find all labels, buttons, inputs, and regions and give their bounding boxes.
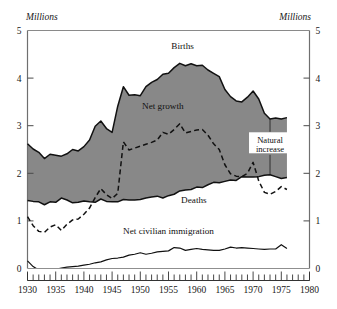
- y-tick-label-left: 1: [17, 216, 22, 226]
- x-tick-label: 1945: [103, 285, 122, 295]
- x-tick-label: 1960: [187, 285, 206, 295]
- x-tick-label: 1935: [46, 285, 65, 295]
- y-tick-label-right: 5: [316, 26, 321, 36]
- net-growth-label: Net growth: [142, 101, 184, 111]
- x-tick-label: 1955: [159, 285, 178, 295]
- population-components-chart: 001122334455 193019351940194519501955196…: [0, 0, 337, 309]
- y-tick-label-left: 5: [17, 26, 22, 36]
- y-tick-label-right: 0: [316, 264, 321, 274]
- y-tick-label-left: 3: [17, 121, 22, 131]
- y-tick-label-right: 1: [316, 216, 321, 226]
- y-tick-label-right: 4: [316, 74, 321, 84]
- x-tick-label: 1930: [18, 285, 37, 295]
- births-label: Births: [171, 41, 194, 51]
- x-tick-label: 1940: [74, 285, 93, 295]
- y-tick-label-left: 4: [17, 74, 22, 84]
- natural-increase-label-line2: increase: [256, 144, 284, 154]
- y-tick-label-left: 2: [17, 169, 22, 179]
- x-tick-label: 1950: [131, 285, 150, 295]
- x-tick-label: 1980: [300, 285, 319, 295]
- x-tick-label: 1975: [272, 285, 291, 295]
- left-axis-unit-label: Millions: [25, 12, 58, 22]
- y-tick-label-right: 2: [316, 169, 321, 179]
- x-tick-label: 1965: [215, 285, 234, 295]
- y-tick-label-right: 3: [316, 121, 321, 131]
- chart-canvas: 001122334455 193019351940194519501955196…: [0, 0, 337, 309]
- y-tick-label-left: 0: [17, 264, 22, 274]
- net-civilian-immigration-label: Net civilian immigration: [123, 226, 214, 236]
- deaths-label: Deaths: [181, 195, 207, 205]
- right-axis-unit-label: Millions: [278, 12, 311, 22]
- natural-increase-label-line1: Natural: [257, 135, 283, 145]
- x-tick-label: 1970: [244, 285, 263, 295]
